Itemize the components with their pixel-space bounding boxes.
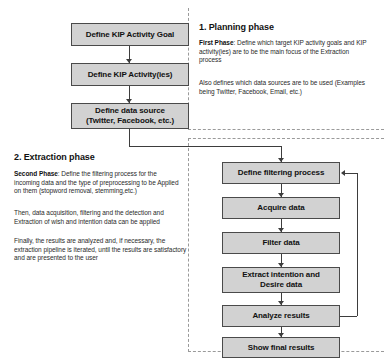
- node-filter-data[interactable]: Filter data: [222, 232, 340, 254]
- planning-paragraph-2-text: Also defines which data sources are to b…: [199, 79, 365, 95]
- feedback-loop-right: [357, 173, 358, 316]
- node-label: Acquire data: [257, 203, 304, 213]
- extraction-paragraph-2: Then, data acquisition, filtering and th…: [14, 209, 186, 226]
- planning-paragraph-1-lead: First Phase: [199, 39, 234, 46]
- node-label: Filter data: [262, 238, 299, 248]
- feedback-loop-bottom: [340, 316, 357, 317]
- node-label: Analyze results: [252, 311, 309, 321]
- feedback-loop-arrowhead: [341, 170, 345, 176]
- node-acquire-data[interactable]: Acquire data: [222, 197, 340, 219]
- node-label-line2: Desire data: [260, 280, 302, 290]
- feedback-loop-top: [345, 173, 357, 174]
- extraction-paragraph-3-text: Finally, the results are analyzed and, i…: [14, 237, 186, 261]
- node-show-final-results[interactable]: Show final results: [222, 337, 340, 358]
- node-label: Define KIP Activity Goal: [86, 30, 174, 40]
- extraction-paragraph-3: Finally, the results are analyzed and, i…: [14, 237, 188, 263]
- node-label: Define KIP Activity(ies): [88, 70, 173, 80]
- planning-paragraph-1: First Phase: Define which target KIP act…: [199, 39, 371, 65]
- planning-phase-heading: 1. Planning phase: [199, 22, 274, 32]
- extraction-paragraph-2-text: Then, data acquisition, filtering and th…: [14, 209, 164, 225]
- planning-paragraph-2: Also defines which data sources are to b…: [199, 79, 373, 96]
- node-label-line1: Define data source: [95, 106, 165, 116]
- node-label-line2: (Twitter, Facebook, etc.): [86, 116, 174, 126]
- node-label: Define filtering process: [238, 168, 325, 178]
- node-define-kip-activities[interactable]: Define KIP Activity(ies): [71, 63, 189, 86]
- extraction-paragraph-1-lead: Second Phase: [14, 170, 58, 177]
- node-extract-intention-desire-data[interactable]: Extract intention and Desire data: [222, 267, 340, 293]
- node-define-filtering-process[interactable]: Define filtering process: [222, 162, 340, 184]
- node-analyze-results[interactable]: Analyze results: [222, 305, 340, 327]
- connector-datasource-down: [129, 129, 130, 146]
- extraction-phase-heading: 2. Extraction phase: [14, 152, 95, 162]
- connector-datasource-across: [129, 146, 281, 147]
- node-label-line1: Extract intention and: [242, 270, 319, 280]
- node-define-data-source[interactable]: Define data source (Twitter, Facebook, e…: [71, 103, 189, 129]
- node-label: Show final results: [248, 343, 315, 353]
- node-define-kip-activity-goal[interactable]: Define KIP Activity Goal: [71, 23, 189, 46]
- extraction-paragraph-1: Second Phase: Define the filtering proce…: [14, 170, 184, 196]
